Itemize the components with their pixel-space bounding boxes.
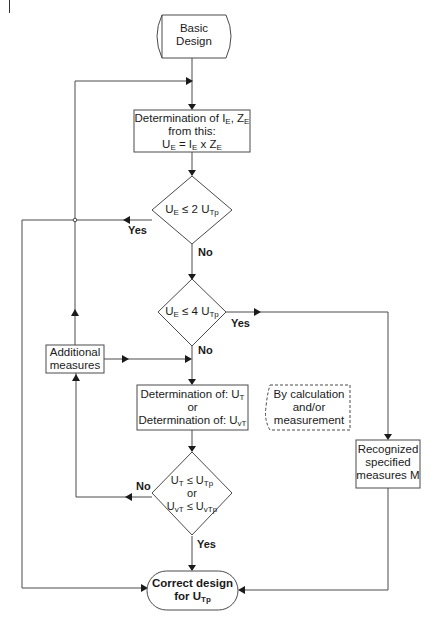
arrow-right-icon: [185, 355, 192, 363]
determine-ut-line2: or: [137, 401, 248, 414]
arrow-down-icon: [188, 170, 196, 176]
determine-ie-ze-line3: UE = IE x ZE: [134, 138, 250, 151]
arrow-right-icon: [122, 355, 129, 363]
end-label-line2: for UTp: [147, 590, 238, 603]
arrow-left-icon: [123, 216, 130, 224]
arrow-down-icon: [188, 104, 196, 110]
d1-yes-label: Yes: [128, 224, 147, 236]
arrow-right-icon: [254, 308, 261, 316]
d2-yes-label: Yes: [231, 317, 250, 329]
end-label: Correct design for UTp: [147, 577, 238, 603]
arrowheads: [71, 77, 392, 594]
recognized-line2: specified: [356, 456, 420, 469]
determine-ie-ze-line1: Determination of IE, ZE: [134, 112, 250, 125]
arrow-down-icon: [188, 565, 196, 571]
decision-4utp-label: UE ≤ 4 UTp: [158, 305, 226, 318]
determine-ie-ze-label: Determination of IE, ZE from this: UE = …: [134, 112, 250, 151]
decision-2utp-label: UE ≤ 2 UTp: [152, 203, 232, 216]
start-label-line2: Design: [162, 35, 226, 48]
determine-ut-label: Determination of: UT or Determination of…: [137, 388, 248, 427]
determine-ut-line3: Determination of: UvT: [137, 414, 248, 427]
line-crossing-icon: [73, 218, 77, 222]
edge-d1-yes-to-end: [22, 220, 152, 588]
end-label-line1: Correct design: [147, 577, 238, 590]
note-line3: measurement: [268, 414, 350, 427]
arrow-left-icon: [125, 493, 132, 501]
decision-ut-label: UT ≤ UTp or UvT ≤ UvTp: [152, 474, 232, 513]
arrow-left-icon: [238, 586, 245, 594]
note-label: By calculation and/or measurement: [268, 388, 350, 427]
determine-ut-line1: Determination of: UT: [137, 388, 248, 401]
arrow-up-icon: [71, 309, 79, 316]
additional-measures-line1: Additional: [46, 346, 104, 359]
additional-measures-line2: measures: [46, 359, 104, 372]
arrow-up-icon: [72, 374, 80, 381]
decision-ut-line1: UT ≤ UTp: [152, 474, 232, 487]
arrow-down-icon: [188, 446, 196, 452]
d3-no-label: No: [136, 480, 151, 492]
recognized-line1: Recognized: [356, 443, 420, 456]
d2-no-label: No: [198, 344, 213, 356]
arrow-down-icon: [188, 379, 196, 385]
edge-recognized-to-end: [240, 488, 388, 590]
decision-ut-line2: or: [152, 487, 232, 500]
note-line1: By calculation: [268, 388, 350, 401]
recognized-line3: measures M: [356, 469, 420, 482]
start-label-line1: Basic: [162, 22, 226, 35]
note-line2: and/or: [268, 401, 350, 414]
d3-yes-label: Yes: [197, 538, 216, 550]
recognized-measures-label: Recognized specified measures M: [356, 443, 420, 482]
d1-no-label: No: [198, 246, 213, 258]
decision-ut-line3: UvT ≤ UvTp: [152, 500, 232, 513]
additional-measures-label: Additional measures: [46, 346, 104, 372]
arrow-down-icon: [384, 434, 392, 440]
start-label: Basic Design: [162, 22, 226, 48]
determine-ie-ze-line2: from this:: [134, 125, 250, 138]
